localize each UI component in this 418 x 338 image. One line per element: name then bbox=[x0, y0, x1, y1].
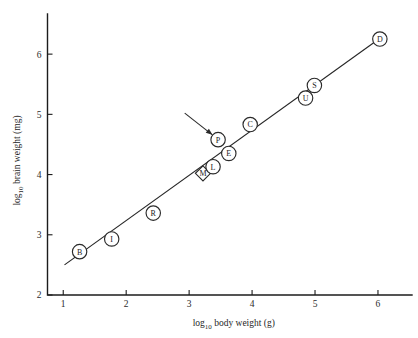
marker-label: R bbox=[151, 209, 157, 218]
data-point-p: P bbox=[211, 132, 225, 146]
marker-label: B bbox=[77, 248, 82, 257]
x-tick-label: 2 bbox=[124, 299, 129, 309]
data-point-l: L bbox=[206, 160, 220, 174]
y-axis-title: log10 brain weight (mg) bbox=[12, 115, 25, 205]
x-axis-title: log10 body weight (g) bbox=[193, 318, 275, 331]
data-point-u: U bbox=[298, 91, 312, 105]
scatter-plot-figure: 12345623456 BIRMLEPCUSD log10 body weigh… bbox=[0, 0, 418, 338]
data-point-d: D bbox=[373, 32, 387, 46]
marker-label: U bbox=[303, 94, 309, 103]
data-point-c: C bbox=[243, 117, 257, 131]
y-tick-label: 4 bbox=[37, 170, 42, 180]
marker-label: M bbox=[199, 169, 206, 178]
y-tick-label: 6 bbox=[37, 50, 42, 60]
x-tick-label: 1 bbox=[61, 299, 66, 309]
x-tick-label: 4 bbox=[250, 299, 255, 309]
marker-label: C bbox=[248, 120, 253, 129]
data-point-e: E bbox=[222, 146, 236, 160]
y-tick-label: 5 bbox=[37, 110, 42, 120]
y-tick-label: 2 bbox=[37, 290, 42, 300]
x-tick-label: 5 bbox=[313, 299, 318, 309]
x-tick-label: 6 bbox=[376, 299, 381, 309]
marker-label: D bbox=[377, 35, 383, 44]
marker-label: L bbox=[211, 163, 216, 172]
marker-label: I bbox=[110, 235, 113, 244]
data-point-b: B bbox=[72, 244, 86, 258]
marker-label: S bbox=[312, 81, 316, 90]
annotation-arrow bbox=[185, 113, 213, 135]
marker-label: E bbox=[226, 149, 231, 158]
marker-label: P bbox=[216, 136, 221, 145]
x-tick-label: 3 bbox=[187, 299, 192, 309]
data-point-i: I bbox=[105, 232, 119, 246]
data-point-r: R bbox=[146, 206, 160, 220]
axis-ticks: 12345623456 bbox=[37, 50, 381, 309]
data-point-s: S bbox=[307, 78, 321, 92]
plot-canvas: 12345623456 BIRMLEPCUSD log10 body weigh… bbox=[0, 0, 418, 338]
arrow-head bbox=[206, 129, 213, 135]
y-tick-label: 3 bbox=[37, 230, 42, 240]
axis-titles: log10 body weight (g)log10 brain weight … bbox=[12, 115, 275, 330]
